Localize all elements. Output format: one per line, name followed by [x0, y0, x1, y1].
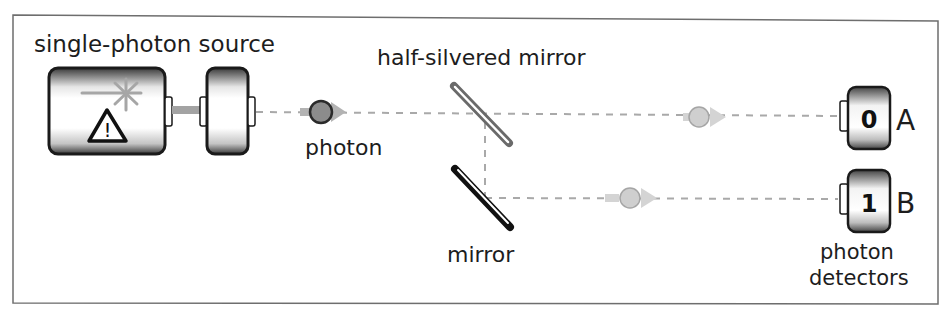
- detector-b-digit: 1: [861, 190, 878, 218]
- photon-path-b: [605, 188, 657, 208]
- label-photon-detectors-line1: photon: [820, 240, 894, 264]
- detector-b-label: B: [896, 187, 915, 220]
- photon-primary: [300, 101, 346, 123]
- beam-lower: [485, 198, 838, 199]
- detector-b: 1: [840, 170, 890, 232]
- detector-a: 0: [840, 87, 890, 149]
- detector-a-digit: 0: [861, 106, 878, 134]
- detector-a-label: A: [896, 104, 915, 137]
- connector-rod: [172, 106, 200, 114]
- label-single-photon-source: single-photon source: [34, 31, 275, 57]
- label-mirror: mirror: [447, 242, 515, 267]
- label-half-silvered-mirror: half-silvered mirror: [377, 45, 587, 70]
- source-module: [200, 68, 255, 154]
- photon-path-a: [683, 107, 726, 127]
- interferometer-diagram: single-photon source !: [0, 0, 947, 316]
- svg-text:!: !: [103, 118, 111, 142]
- label-photon: photon: [305, 135, 382, 160]
- label-photon-detectors-line2: detectors: [809, 266, 909, 290]
- single-photon-source: !: [49, 68, 172, 154]
